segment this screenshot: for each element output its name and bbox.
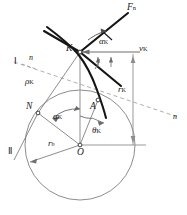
label-alpha-at-K-sub: K [104, 39, 108, 45]
label-rho-K: ρK [25, 77, 34, 86]
label-normal-left: n [29, 54, 33, 62]
theta-K-arc-at-O [80, 116, 92, 119]
line-II-through-N [14, 113, 38, 160]
involute-profile-curve [47, 27, 106, 118]
tooth-flank-line [44, 31, 80, 52]
label-alpha-at-O: αK [53, 112, 62, 121]
label-point-K: K [66, 44, 72, 54]
label-velocity-sub: K [143, 46, 147, 52]
label-alpha-at-O-sub: K [58, 114, 62, 120]
figure-canvas: Fn αK vK Ⅰ n n ρK rK αK θK rb Ⅱ K N A O [0, 0, 187, 215]
line-I-marker [22, 64, 36, 69]
label-radius-base-sub: b [52, 141, 55, 147]
segment-K-N [38, 52, 80, 113]
force-line-Fn [80, 13, 128, 86]
label-alpha-at-K: αK [99, 37, 108, 46]
label-radius-K: rK [118, 85, 126, 94]
label-rho-K-sub: K [29, 79, 33, 85]
label-force-vector: Fn [127, 3, 136, 13]
radius-base-arrowhead [30, 158, 37, 163]
label-line-I: Ⅰ [14, 57, 17, 66]
alpha-K-arrowhead-right [109, 57, 113, 62]
label-velocity: vK [139, 44, 147, 53]
radius-K-arrowhead-top [131, 56, 136, 63]
label-point-N: N [26, 102, 32, 112]
theta-K-leader [92, 118, 104, 123]
label-line-II: Ⅱ [8, 147, 12, 156]
radius-base-leader [30, 145, 80, 162]
label-force-vector-sub: n [133, 4, 136, 11]
label-point-A: A [90, 102, 96, 112]
point-marker-K [78, 50, 82, 54]
point-marker-N [36, 111, 40, 115]
label-radius-K-sub: K [122, 87, 126, 93]
label-radius-base: rb [48, 139, 55, 148]
label-point-O: O [77, 148, 84, 158]
point-marker-A [96, 98, 100, 102]
label-normal-right: n [173, 113, 177, 121]
label-theta-K-sub: K [96, 128, 100, 134]
label-theta-K: θK [92, 126, 101, 135]
